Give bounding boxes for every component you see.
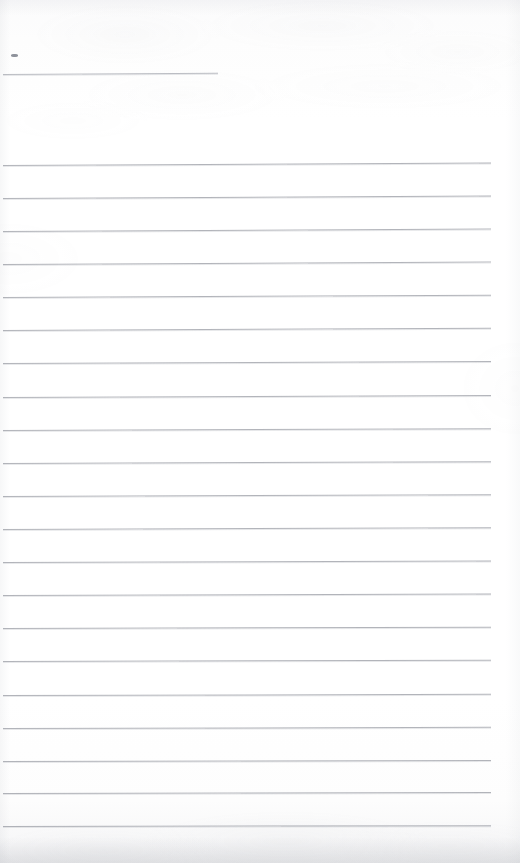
scan-noise-texture (0, 0, 520, 863)
scan-edge-shadow-left (0, 0, 10, 863)
scan-edge-shadow-top (0, 0, 520, 16)
ink-speck (11, 54, 18, 57)
scan-edge-shadow-bottom (0, 837, 520, 863)
scanned-page (0, 0, 520, 863)
scan-edge-shadow-right (506, 0, 520, 863)
